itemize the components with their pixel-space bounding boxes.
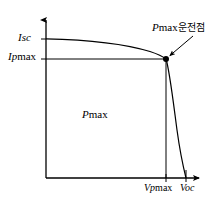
ipmax-label-italic: Ip [8, 50, 17, 62]
annotation-italic: P [152, 21, 159, 33]
pmax-area-label: Pmax [82, 109, 108, 120]
voc-label-text: Voc [180, 182, 194, 193]
annotation-korean: 운전점 [178, 22, 205, 33]
annotation-leader-line [170, 36, 193, 56]
voc-label: Voc [180, 183, 194, 193]
pmax-area-italic: P [82, 108, 89, 120]
pmax-area-roman: max [89, 108, 108, 120]
vpmax-label-roman: max [155, 182, 172, 193]
annotation-roman: max [159, 21, 178, 33]
isc-label-text: Isc [18, 31, 31, 43]
ipmax-label: Ipmax [8, 51, 36, 62]
vpmax-label-italic: Vp [144, 182, 155, 193]
isc-label: Isc [18, 32, 31, 43]
iv-curve-figure: Isc Ipmax Pmax Pmax운전점 Vpmax Voc [0, 0, 223, 208]
max-power-point-marker [163, 56, 169, 62]
ipmax-label-roman: max [17, 50, 36, 62]
vpmax-label: Vpmax [144, 183, 172, 193]
max-power-point-annotation: Pmax운전점 [152, 22, 205, 33]
